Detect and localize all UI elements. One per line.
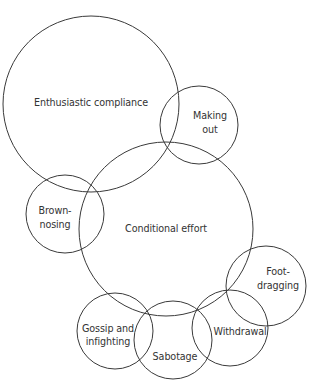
making-out-ring bbox=[160, 86, 238, 164]
circle-withdrawal: Withdrawal bbox=[192, 290, 268, 366]
withdrawal-label: Withdrawal bbox=[213, 326, 266, 337]
brown-nosing-label-line2: nosing bbox=[39, 219, 70, 230]
gossip-label-line1: Gossip and bbox=[82, 323, 134, 334]
making-out-label-line2: out bbox=[202, 124, 218, 135]
overlapping-circles-diagram: Enthusiastic compliance Making out Condi… bbox=[0, 0, 314, 385]
circle-making-out: Making out bbox=[160, 86, 238, 164]
circle-brown-nosing: Brown- nosing bbox=[26, 175, 104, 253]
foot-dragging-label-line2: dragging bbox=[257, 280, 299, 291]
circle-foot-dragging: Foot- dragging bbox=[226, 246, 306, 326]
circle-gossip-and-infighting: Gossip and infighting bbox=[77, 293, 153, 369]
enthusiastic-compliance-label: Enthusiastic compliance bbox=[34, 97, 148, 108]
sabotage-ring bbox=[134, 301, 212, 379]
circle-sabotage: Sabotage bbox=[134, 301, 212, 379]
circle-enthusiastic-compliance: Enthusiastic compliance bbox=[3, 16, 179, 192]
brown-nosing-label-line1: Brown- bbox=[39, 205, 72, 216]
sabotage-label: Sabotage bbox=[153, 351, 198, 362]
foot-dragging-label-line1: Foot- bbox=[266, 266, 290, 277]
making-out-label-line1: Making bbox=[193, 110, 227, 121]
gossip-label-line2: infighting bbox=[86, 336, 131, 347]
conditional-effort-label: Conditional effort bbox=[125, 223, 207, 234]
